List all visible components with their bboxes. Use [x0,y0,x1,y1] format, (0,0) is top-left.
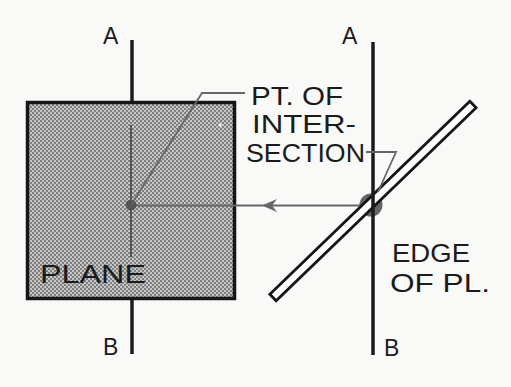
callout-line-3: SECTION [246,139,365,167]
callout-line-1: PT. OF [251,82,343,110]
label-a-left: A [103,23,119,49]
edge-label-line-1: EDGE [392,239,470,267]
label-b-right: B [384,335,399,361]
edge-label-line-2: OF PL. [390,269,490,297]
plane-label: PLANE [40,260,146,288]
label-b-left: B [103,334,118,360]
intersection-diagram: A B PLANE A B EDGE OF PL. PT. OF INTER- … [0,0,511,387]
left-view: A B PLANE [28,23,235,360]
callout-line-2: INTER- [252,110,356,138]
paper-speck [219,124,222,127]
label-a-right: A [342,23,358,49]
right-view: A B EDGE OF PL. [270,23,490,361]
